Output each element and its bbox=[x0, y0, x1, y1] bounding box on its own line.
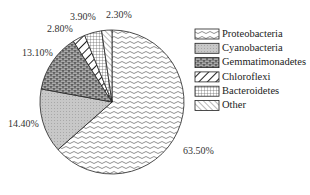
legend-label: Proteobacteria bbox=[222, 29, 283, 40]
legend-item-other: Other bbox=[195, 98, 306, 112]
legend-label: Bacteroidetes bbox=[222, 86, 279, 97]
legend-item-chloroflexi: Chloroflexi bbox=[195, 70, 306, 84]
legend-item-cyanobacteria: Cyanobacteria bbox=[195, 41, 306, 55]
label-proteobacteria: 63.50% bbox=[183, 145, 214, 156]
label-chloroflexi: 2.80% bbox=[47, 23, 73, 34]
legend: Proteobacteria Cyanobacteria Gemmatimona… bbox=[195, 27, 306, 113]
legend-label: Chloroflexi bbox=[222, 72, 270, 83]
legend-label: Cyanobacteria bbox=[222, 43, 283, 54]
legend-item-bacteroidetes: Bacteroidetes bbox=[195, 84, 306, 98]
pie-slices bbox=[40, 30, 184, 174]
legend-label: Other bbox=[222, 100, 246, 111]
label-cyanobacteria: 14.40% bbox=[8, 118, 39, 129]
label-bacteroidetes: 3.90% bbox=[70, 11, 96, 22]
legend-item-gemmatimonadetes: Gemmatimonadetes bbox=[195, 56, 306, 70]
legend-item-proteobacteria: Proteobacteria bbox=[195, 27, 306, 41]
label-gemmatimonadetes: 13.10% bbox=[22, 47, 53, 58]
label-other: 2.30% bbox=[106, 9, 132, 20]
legend-label: Gemmatimonadetes bbox=[222, 57, 306, 68]
